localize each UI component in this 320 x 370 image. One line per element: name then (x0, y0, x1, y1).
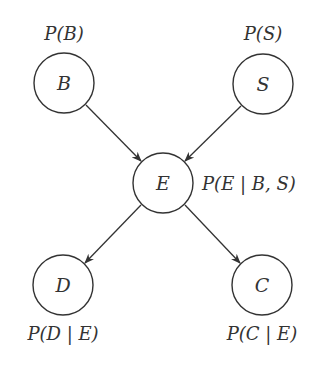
node-c: C (232, 255, 292, 315)
node-b: B (34, 53, 94, 113)
node-b-label: B (56, 72, 71, 94)
node-e: E (133, 153, 193, 213)
prob-s-label: P(S) (243, 23, 283, 44)
bayesian-network-diagram: B P(B) S P(S) E P(E | B, S) D P(D | E) C… (0, 0, 320, 370)
prob-b-label: P(B) (43, 23, 83, 44)
node-d-label: D (54, 274, 70, 296)
prob-e-label: P(E | B, S) (201, 173, 296, 195)
diagram-svg: B P(B) S P(S) E P(E | B, S) D P(D | E) C… (0, 0, 320, 370)
edge-b-to-e (86, 105, 141, 161)
prob-d-label: P(D | E) (26, 323, 98, 345)
prob-c-label: P(C | E) (226, 323, 298, 345)
edge-s-to-e (185, 106, 241, 161)
node-e-label: E (155, 172, 170, 194)
node-s: S (233, 54, 293, 114)
node-d: D (33, 255, 93, 315)
edge-e-to-c (185, 205, 240, 263)
edge-e-to-d (85, 205, 141, 263)
node-c-label: C (255, 274, 270, 296)
node-s-label: S (256, 73, 269, 95)
